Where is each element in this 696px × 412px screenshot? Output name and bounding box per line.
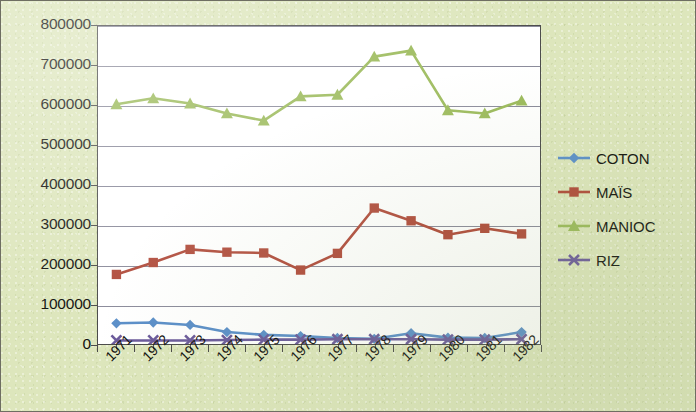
series-line [116, 51, 521, 121]
x-axis-tick-major [97, 345, 98, 352]
x-axis-tick-major [319, 345, 320, 352]
data-point-diamond [111, 318, 121, 328]
legend-label: MAÏS [596, 184, 632, 201]
data-point-square [222, 248, 231, 257]
y-axis-tick-label: 400000 [5, 175, 91, 193]
legend: COTONMAÏSMANIOCRIZ [557, 141, 689, 277]
legend-item-manioc[interactable]: MANIOC [557, 209, 689, 243]
legend-label: MANIOC [596, 218, 655, 235]
data-point-square [480, 224, 489, 233]
y-axis-tick-label: 0 [5, 335, 91, 353]
chart-figure: 8000007000006000005000004000003000002000… [0, 0, 696, 412]
x-axis-tick-major [282, 345, 283, 352]
legend-label: COTON [596, 150, 649, 167]
legend-item-coton[interactable]: COTON [557, 141, 689, 175]
data-point-diamond [569, 153, 579, 163]
y-axis-tick-label: 100000 [5, 295, 91, 313]
y-axis-tick-label: 700000 [5, 55, 91, 73]
series-manioc [110, 45, 527, 126]
data-point-diamond [148, 317, 158, 327]
legend-marker-cross-icon [557, 251, 591, 269]
legend-marker-square-icon [557, 183, 591, 201]
data-point-square [259, 248, 268, 257]
series-line [116, 208, 521, 274]
y-axis-tick-label: 600000 [5, 95, 91, 113]
y-axis: 8000007000006000005000004000003000002000… [1, 1, 91, 412]
y-axis-tick-label: 500000 [5, 135, 91, 153]
data-point-triangle [516, 95, 528, 106]
data-point-square [569, 187, 578, 196]
data-point-square [185, 245, 194, 254]
legend-item-mas[interactable]: MAÏS [557, 175, 689, 209]
y-axis-tick-label: 800000 [5, 15, 91, 33]
x-axis-tick-major [356, 345, 357, 352]
data-point-diamond [185, 320, 195, 330]
data-point-square [333, 249, 342, 258]
legend-label: RIZ [596, 252, 620, 269]
x-axis-tick-major [430, 345, 431, 352]
data-point-square [370, 203, 379, 212]
x-axis-tick-major [171, 345, 172, 352]
y-axis-tick-label: 200000 [5, 255, 91, 273]
legend-item-riz[interactable]: RIZ [557, 243, 689, 277]
x-axis-tick-major [245, 345, 246, 352]
data-point-square [112, 270, 121, 279]
data-point-square [406, 216, 415, 225]
x-axis-tick-major [208, 345, 209, 352]
plot-area [97, 25, 541, 345]
data-point-square [517, 229, 526, 238]
y-axis-tick-label: 300000 [5, 215, 91, 233]
data-point-square [443, 230, 452, 239]
data-point-square [149, 258, 158, 267]
series-mas [112, 203, 527, 279]
x-axis: 1971197219731974197519761977197819791980… [97, 353, 567, 411]
x-axis-tick-major [134, 345, 135, 352]
x-axis-tick-major [467, 345, 468, 352]
x-axis-tick-major [393, 345, 394, 352]
series-lines [98, 26, 540, 344]
legend-marker-triangle-icon [557, 217, 591, 235]
data-point-square [296, 265, 305, 274]
legend-marker-diamond-icon [557, 149, 591, 167]
x-axis-tick-major [504, 345, 505, 352]
x-axis-tick-major [541, 345, 542, 352]
